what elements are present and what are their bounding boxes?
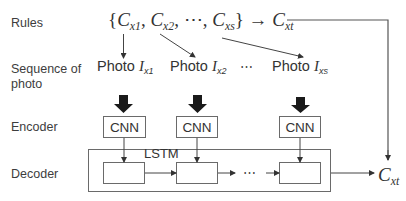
rule-learning-diagram: Rules Sequence of photo Encoder Decoder … bbox=[0, 0, 406, 201]
thick-arrow-s bbox=[291, 97, 310, 113]
rule-to-photo-arrow-2 bbox=[160, 34, 195, 57]
target-connector-line bbox=[287, 20, 388, 160]
thick-arrow-2 bbox=[188, 95, 207, 113]
thick-arrow-1 bbox=[114, 95, 133, 113]
rule-to-photo-arrow-s bbox=[222, 38, 303, 57]
connector-lines bbox=[0, 0, 406, 201]
thick-down-arrows bbox=[114, 95, 310, 113]
